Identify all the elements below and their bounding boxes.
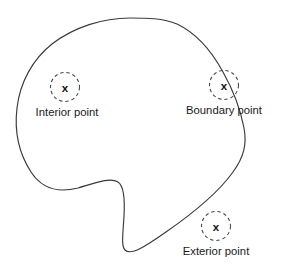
marker-boundary-point: x Boundary point — [186, 71, 263, 117]
interior-point-x-icon: x — [62, 82, 69, 94]
interior-point-label: Interior point — [36, 106, 100, 118]
boundary-point-label: Boundary point — [186, 104, 263, 116]
closed-region-outline — [16, 18, 245, 252]
diagram-canvas: x Interior point x Boundary point x Exte… — [0, 0, 281, 267]
marker-exterior-point: x Exterior point — [183, 212, 250, 258]
marker-interior-point: x Interior point — [36, 73, 100, 119]
exterior-point-x-icon: x — [213, 221, 220, 233]
boundary-point-x-icon: x — [221, 80, 228, 92]
exterior-point-label: Exterior point — [183, 245, 250, 257]
topology-diagram: x Interior point x Boundary point x Exte… — [0, 0, 281, 267]
